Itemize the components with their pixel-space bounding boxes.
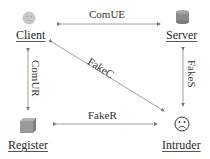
edge-label-faker: FakeR [88, 109, 117, 121]
neutral-face-icon [23, 12, 35, 24]
box-cube-icon [20, 118, 36, 133]
node-label-intruder: Intruder [162, 138, 201, 153]
sad-face-icon [175, 117, 189, 131]
node-label-client: Client [16, 28, 45, 43]
node-label-server: Server [166, 28, 197, 43]
edge-label-comue: ComUE [89, 8, 125, 20]
diagram-canvas: Client Server Register Intruder ComUE Co… [0, 0, 210, 159]
edge-label-fakes: FakeS [186, 60, 198, 88]
edge-label-comur: ComUR [30, 60, 42, 97]
database-cylinder-icon [176, 10, 189, 24]
node-label-register: Register [8, 138, 48, 153]
